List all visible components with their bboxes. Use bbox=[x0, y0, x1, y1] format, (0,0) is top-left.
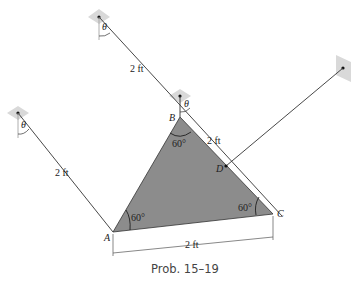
dim-left-cable: 2 ft bbox=[55, 167, 69, 178]
theta-label-B: θ bbox=[184, 98, 189, 109]
dim-BC-cable: 2 ft bbox=[207, 135, 221, 146]
angle-A-label: 60° bbox=[131, 212, 145, 223]
theta-label-top: θ bbox=[102, 21, 107, 32]
label-B: B bbox=[169, 112, 175, 123]
dim-top-cable: 2 ft bbox=[130, 63, 144, 74]
label-D: D bbox=[215, 163, 224, 174]
figure-caption: Prob. 15–19 bbox=[151, 262, 219, 276]
label-A: A bbox=[103, 232, 111, 243]
cable-D-wall bbox=[226, 68, 343, 166]
angle-C-label: 60° bbox=[238, 202, 252, 213]
support-wall-right bbox=[336, 55, 351, 82]
dim-base: 2 ft bbox=[185, 239, 199, 250]
pendulum-plate-diagram: θ θ θ 2 ft 2 ft 2 ft 2 ft B A C D 60° 60… bbox=[0, 0, 358, 282]
point-D-marker bbox=[224, 164, 227, 167]
theta-label-left: θ bbox=[21, 119, 26, 130]
label-C: C bbox=[277, 208, 284, 219]
angle-B-label: 60° bbox=[172, 138, 186, 149]
